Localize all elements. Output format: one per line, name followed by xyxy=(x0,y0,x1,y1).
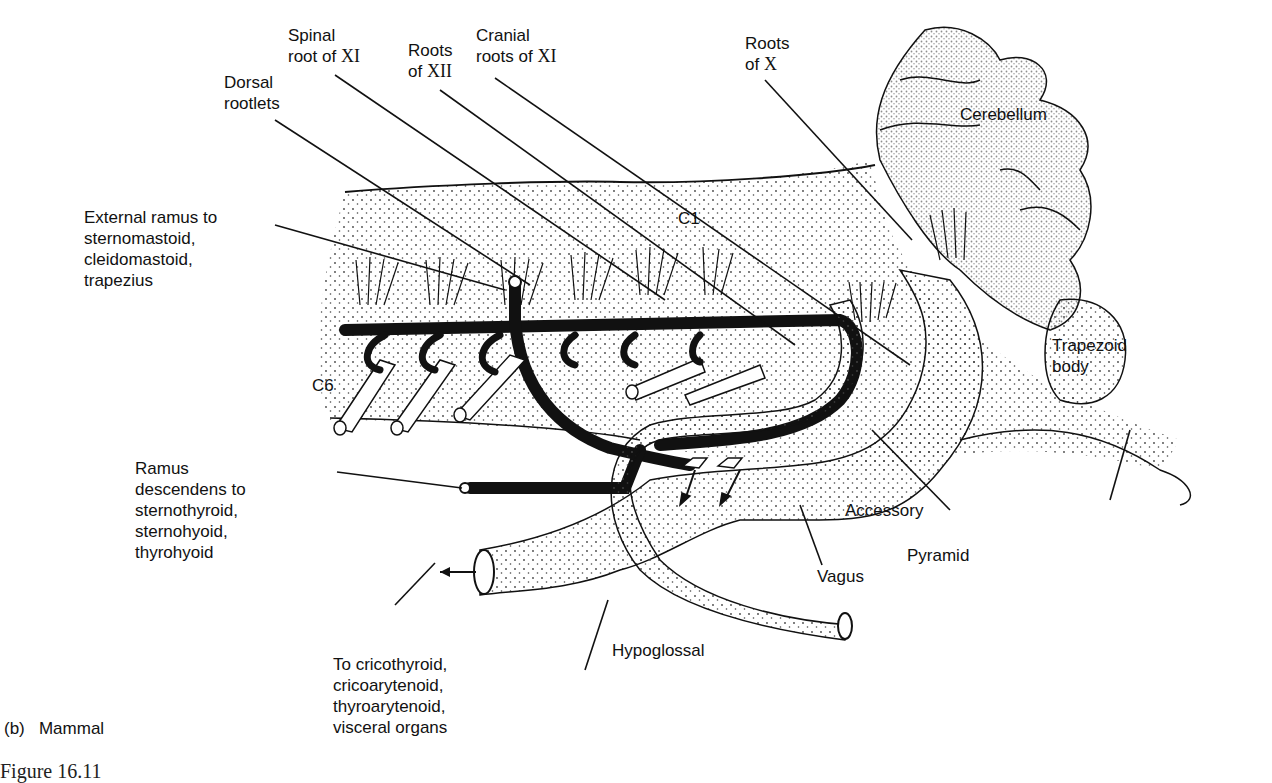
label-line: of xyxy=(408,62,427,81)
figure-label: Figure 16.11 xyxy=(0,760,101,783)
label-line: Spinal xyxy=(288,26,335,45)
label-c1: C1 xyxy=(678,208,700,229)
panel-caption: (b) Mammal xyxy=(4,719,104,739)
label-roots-x: Roots of X xyxy=(745,33,789,75)
label-to-cricothyroid: To cricothyroid, cricoarytenoid, thyroar… xyxy=(333,654,447,738)
roman-numeral: X xyxy=(764,54,777,74)
label-line: Roots xyxy=(408,41,452,60)
label-hypoglossal: Hypoglossal xyxy=(612,640,705,661)
label-pyramid: Pyramid xyxy=(907,545,969,566)
label-external-ramus: External ramus to sternomastoid, cleidom… xyxy=(84,207,217,291)
label-line: Cranial xyxy=(476,26,530,45)
label-cranial-roots-xi: Cranial roots of XI xyxy=(476,25,556,67)
roman-numeral: XI xyxy=(341,46,360,66)
label-dorsal-rootlets: Dorsal rootlets xyxy=(224,72,280,114)
label-roots-xii: Roots of XII xyxy=(408,40,452,82)
roman-numeral: XII xyxy=(427,61,452,81)
label-trapezoid-body: Trapezoid body xyxy=(1052,335,1127,377)
label-spinal-root-xi: Spinal root of XI xyxy=(288,25,360,67)
label-vagus: Vagus xyxy=(817,566,864,587)
roman-numeral: XI xyxy=(537,46,556,66)
label-line: roots of xyxy=(476,47,537,66)
label-line: Roots xyxy=(745,34,789,53)
label-line: root of xyxy=(288,47,341,66)
label-cerebellum: Cerebellum xyxy=(960,104,1047,125)
label-accessory: Accessory xyxy=(845,500,923,521)
label-c6: C6 xyxy=(312,375,334,396)
label-line: of xyxy=(745,55,764,74)
label-ramus-descendens: Ramus descendens to sternothyroid, stern… xyxy=(135,458,246,563)
